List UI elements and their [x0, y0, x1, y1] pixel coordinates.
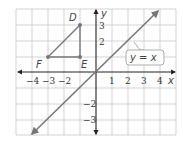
- label-d: D: [69, 12, 77, 23]
- point-f: [46, 55, 50, 59]
- line-label: y = x: [129, 52, 157, 63]
- y-tick: −3: [83, 115, 97, 125]
- x-tick: 2: [125, 76, 131, 86]
- coordinate-plane: D E F y = x x y −4 −3 −2 1 2 3 4 3 2 −2 …: [0, 0, 182, 143]
- y-axis-label: y: [100, 8, 108, 19]
- label-f: F: [36, 59, 42, 70]
- x-tick: −2: [58, 76, 71, 86]
- x-tick: 3: [141, 76, 147, 86]
- x-tick: 1: [109, 76, 115, 86]
- line-label-callout-pointer: [134, 42, 144, 50]
- x-tick: 4: [157, 76, 163, 86]
- x-tick: −3: [42, 76, 56, 86]
- y-tick: −2: [83, 99, 96, 109]
- y-tick: 3: [99, 21, 105, 31]
- x-axis-label: x: [167, 75, 174, 86]
- label-e: E: [81, 59, 88, 70]
- x-tick: −4: [26, 76, 40, 86]
- point-d: [78, 23, 82, 27]
- y-tick: 2: [99, 37, 105, 47]
